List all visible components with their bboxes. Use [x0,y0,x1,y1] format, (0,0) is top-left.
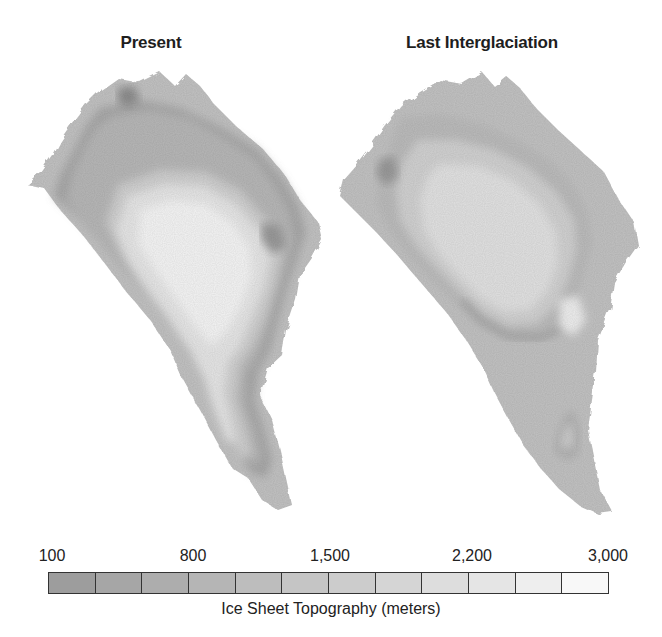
map-last-interglaciation [0,0,662,540]
legend-color-bar [48,572,609,594]
legend-tick-100: 100 [39,547,66,565]
legend-swatch [469,573,516,593]
legend-tick-1500: 1,500 [310,547,350,565]
legend-swatch [562,573,608,593]
legend-swatch [516,573,563,593]
legend-tick-3000: 3,000 [588,547,628,565]
legend-swatch [329,573,376,593]
legend-swatch [96,573,143,593]
legend-swatch [49,573,96,593]
legend-tick-800: 800 [180,547,207,565]
legend-swatch [236,573,283,593]
legend-swatch [376,573,423,593]
legend-caption: Ice Sheet Topography (meters) [221,600,440,618]
legend-swatch [422,573,469,593]
legend-swatch [282,573,329,593]
greenland-last-interglaciation [340,72,638,514]
legend-tick-2200: 2,200 [452,547,492,565]
legend-swatch [189,573,236,593]
legend-swatch [142,573,189,593]
